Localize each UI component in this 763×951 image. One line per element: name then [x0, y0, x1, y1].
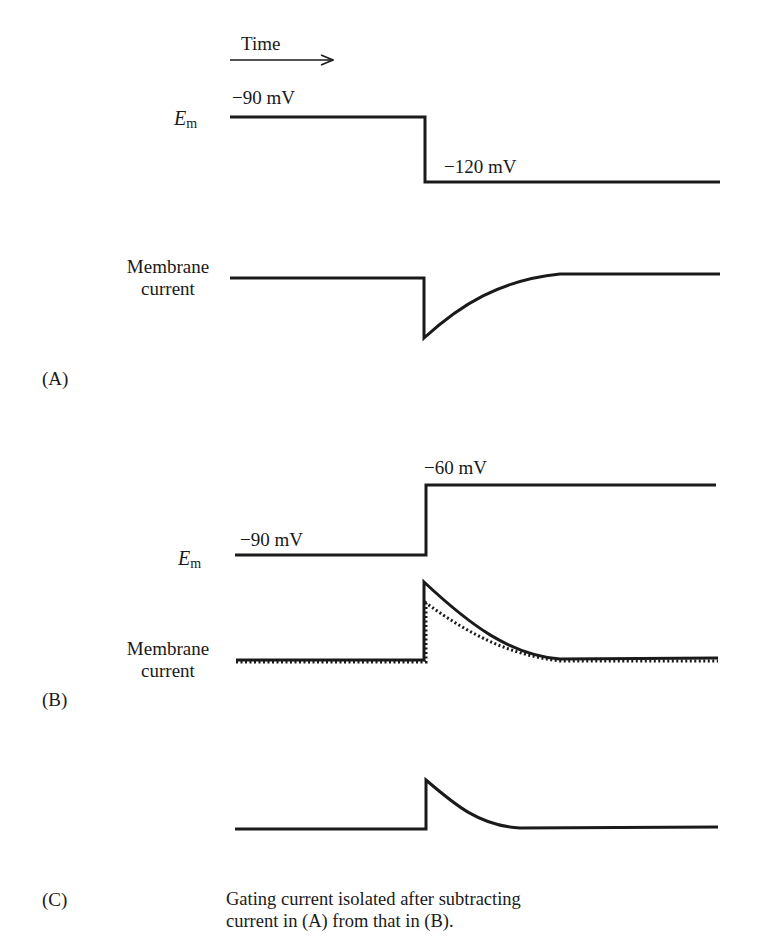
- diagram-traces: [0, 0, 763, 951]
- panel-b-current-label: Membranecurrent: [112, 638, 224, 682]
- panel-b-current-dotted-trace: [236, 603, 718, 662]
- panel-c-gating-current-trace: [235, 780, 718, 829]
- panel-c-letter: (C): [42, 890, 67, 909]
- panel-a-current-label: Membranecurrent: [112, 256, 224, 300]
- panel-b-holding-voltage: −90 mV: [240, 530, 303, 549]
- panel-a-current-trace: [230, 274, 720, 338]
- panel-a-letter: (A): [42, 369, 68, 388]
- panel-b-step-voltage: −60 mV: [424, 458, 487, 477]
- panel-a-step-voltage: −120 mV: [444, 157, 516, 176]
- panel-b-letter: (B): [42, 690, 67, 709]
- panel-b-voltage-trace: [235, 485, 716, 555]
- panel-c-caption: Gating current isolated after subtractin…: [226, 888, 666, 932]
- panel-a-holding-voltage: −90 mV: [232, 88, 295, 107]
- panel-b-em-label: Em: [178, 548, 201, 571]
- panel-a-em-label: Em: [174, 108, 197, 131]
- panel-b-current-trace: [236, 582, 718, 660]
- time-label: Time: [241, 34, 280, 53]
